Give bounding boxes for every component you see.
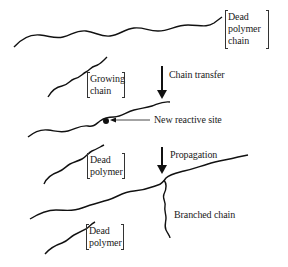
dead-polymer-chain-label-line3: chain: [228, 36, 266, 46]
dead-polymer-1-label-line2: polymer: [90, 167, 122, 177]
growing-chain-bracket: Growing chain: [87, 72, 125, 98]
branched-chain-label: Branched chain: [174, 210, 235, 220]
reactive-site-dot: [103, 118, 109, 124]
reactive-polymer-curve: [28, 102, 170, 137]
chain-transfer-label: Chain transfer: [169, 70, 225, 80]
dead-polymer-1-bracket: Dead polymer: [87, 153, 125, 179]
dead-polymer-1-label-line1: Dead: [90, 155, 122, 165]
growing-chain-label-line1: Growing: [90, 74, 122, 84]
dead-polymer-2-label-line1: Dead: [89, 226, 121, 236]
propagation-label: Propagation: [170, 150, 217, 160]
growing-chain-label-line2: chain: [90, 86, 122, 96]
chain-transfer-arrowhead-icon: [157, 90, 167, 99]
dead-polymer-chain-bracket: Dead polymer chain: [225, 10, 269, 49]
dead-polymer-chain-label-line1: Dead: [228, 12, 266, 22]
dead-polymer-2-label-line2: polymer: [89, 238, 121, 248]
new-reactive-site-label: New reactive site: [154, 115, 222, 125]
dead-polymer-chain-label-line2: polymer: [228, 24, 266, 34]
dead-polymer-2-bracket: Dead polymer: [86, 224, 124, 250]
branched-chain-branch-curve: [163, 180, 170, 238]
dead-polymer-chain-curve: [14, 17, 222, 47]
propagation-arrowhead-icon: [157, 165, 167, 174]
reactive-site-pointer-arrowhead-icon: [110, 118, 116, 123]
